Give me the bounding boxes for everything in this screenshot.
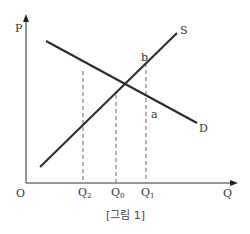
demand-curve	[46, 41, 197, 123]
point-a-label: a	[151, 108, 158, 121]
q0-tick-label: Q0	[111, 186, 125, 200]
supply-demand-diagram: P S D b a O Q Q2 Q0 Q1 [그림 1]	[0, 0, 250, 234]
svg-text:Q1: Q1	[141, 186, 155, 200]
q1-tick-label: Q1	[141, 186, 155, 200]
y-axis-arrow-icon	[23, 14, 29, 22]
figure-caption: [그림 1]	[106, 209, 145, 222]
q2-tick-label: Q2	[78, 186, 92, 200]
point-b-label: b	[141, 51, 148, 64]
x-axis-arrow-icon	[230, 180, 238, 186]
svg-text:Q2: Q2	[78, 186, 92, 200]
svg-text:Q0: Q0	[111, 186, 125, 200]
origin-label: O	[16, 187, 25, 200]
x-axis-label: Q	[223, 187, 232, 200]
supply-label: S	[180, 24, 188, 37]
demand-label: D	[199, 122, 208, 135]
y-axis-label: P	[15, 22, 23, 35]
